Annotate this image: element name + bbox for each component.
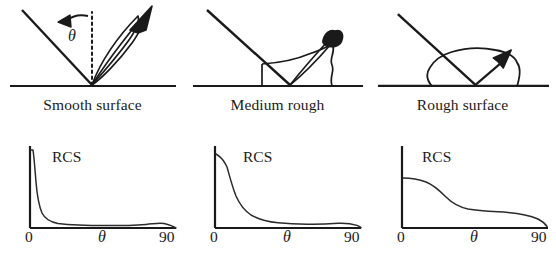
diffuse-pedestal-top (262, 45, 330, 64)
smooth-surface-diagram (0, 0, 185, 100)
rcs-curve (216, 154, 361, 228)
theta-arrowhead (58, 15, 71, 27)
specular-lobe-right (290, 44, 331, 85)
rcs-curve (403, 178, 547, 227)
panel-smooth: θ Smooth surface (0, 0, 185, 130)
specular-lobe-left (290, 42, 327, 85)
x-tick-0: 0 (210, 228, 218, 246)
rcs-plot-medium: RCS 0 θ 90 (185, 140, 370, 252)
panel-rough-surface: Rough surface (370, 0, 555, 130)
specular-peak-blob (323, 30, 343, 46)
x-axis-label-theta: θ (283, 228, 291, 246)
rcs-label: RCS (52, 148, 81, 166)
x-tick-90: 90 (344, 228, 360, 246)
rcs-label: RCS (422, 148, 451, 166)
rough-surface-diagram (370, 0, 555, 100)
caption-medium-rough: Medium rough (185, 96, 370, 114)
x-tick-90: 90 (159, 228, 175, 246)
incident-ray (207, 10, 290, 85)
diffuse-pedestal-right (331, 46, 333, 86)
rcs-plot-smooth: RCS 0 θ 90 (0, 140, 185, 252)
x-axis-label-theta: θ (470, 228, 478, 246)
scattered-ray-arrowhead (493, 50, 511, 68)
medium-rough-diagram (185, 0, 370, 100)
incident-ray (22, 10, 92, 85)
rcs-label: RCS (243, 148, 272, 166)
rcs-roughness-figure: θ Smooth surface Medium rough (0, 0, 556, 256)
x-tick-0: 0 (397, 228, 405, 246)
panel-medium-rough: Medium rough (185, 0, 370, 130)
specular-lobe-arrowhead (130, 6, 152, 33)
x-tick-90: 90 (531, 228, 547, 246)
theta-angle-label: θ (68, 27, 76, 45)
x-axis-label-theta: θ (98, 228, 106, 246)
rcs-plot-rough: RCS 0 θ 90 (370, 140, 555, 252)
caption-smooth-surface: Smooth surface (0, 96, 185, 114)
scattered-ray (475, 62, 502, 85)
caption-rough-surface: Rough surface (370, 96, 555, 114)
x-tick-0: 0 (25, 228, 33, 246)
